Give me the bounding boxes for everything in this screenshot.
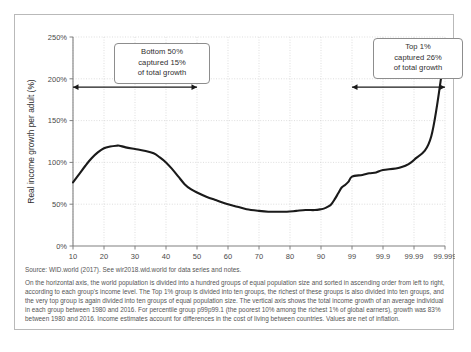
- annotation-line: Bottom 50%: [119, 47, 205, 58]
- x-tick-label: 30: [131, 252, 139, 261]
- y-tick-label: 100%: [48, 158, 68, 167]
- annotation-bottom-50: Bottom 50% captured 15% of total growth: [114, 43, 210, 84]
- annotation-arrow-top1: [352, 84, 445, 90]
- y-axis-title: Real income growth per adult (%): [26, 79, 36, 203]
- y-tick-label: 50%: [52, 200, 67, 209]
- x-tick-label: 70: [255, 252, 263, 261]
- x-axis: 1020304050607080909999.999.9999.999: [69, 246, 455, 261]
- x-tick-label: 40: [162, 252, 170, 261]
- y-axis: 0%50%100%150%200%250%: [48, 33, 73, 251]
- annotation-top-1: Top 1% captured 26% of total growth: [373, 38, 463, 79]
- y-tick-label: 200%: [48, 75, 68, 84]
- annotation-line: captured 26%: [378, 53, 458, 64]
- annotation-line: Top 1%: [378, 42, 458, 53]
- x-tick-label: 99.99: [405, 252, 424, 261]
- x-tick-label: 99: [348, 252, 356, 261]
- x-tick-label: 20: [100, 252, 108, 261]
- x-tick-label: 50: [193, 252, 201, 261]
- x-tick-label: 90: [317, 252, 325, 261]
- x-tick-label: 99.999: [434, 252, 455, 261]
- y-tick-label: 250%: [48, 33, 68, 42]
- figure-panel: 0%50%100%150%200%250% 102030405060708090…: [14, 14, 454, 330]
- x-tick-label: 80: [286, 252, 294, 261]
- chart-plot-area: 0%50%100%150%200%250% 102030405060708090…: [15, 15, 455, 261]
- figure-notes: Source: WID.world (2017). See wir2018.wi…: [15, 261, 455, 331]
- annotation-line: of total growth: [378, 63, 458, 74]
- y-tick-label: 0%: [56, 242, 67, 251]
- y-tick-label: 150%: [48, 116, 68, 125]
- x-tick-label: 60: [224, 252, 232, 261]
- notes-body: On the horizontal axis, the world popula…: [25, 278, 445, 323]
- annotation-line: of total growth: [119, 68, 205, 79]
- x-tick-label: 10: [69, 252, 77, 261]
- source-line: Source: WID.world (2017). See wir2018.wi…: [25, 265, 445, 274]
- x-tick-label: 99.9: [376, 252, 391, 261]
- annotation-line: captured 15%: [119, 58, 205, 69]
